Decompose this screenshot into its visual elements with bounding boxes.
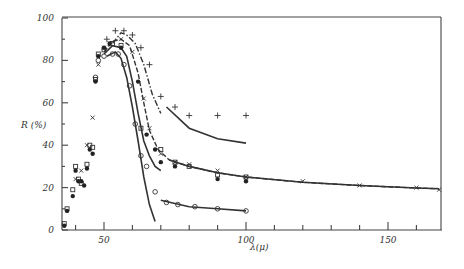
square-marker	[85, 162, 89, 166]
series-curve-tail	[167, 107, 247, 143]
filled-circle-marker	[90, 151, 94, 155]
x-axis-ticks: 50100150	[76, 222, 417, 245]
filled-circle-marker	[65, 209, 69, 213]
cross-marker	[79, 169, 83, 173]
filled-circle-marker	[173, 164, 177, 168]
y-tick-label: 20	[42, 183, 55, 193]
filled-circle-marker	[107, 41, 111, 45]
filled-circle-marker	[102, 45, 106, 49]
plus-marker	[146, 62, 152, 68]
plus-marker	[186, 113, 192, 119]
open-circle-marker	[144, 164, 149, 169]
filled-circle-marker	[73, 168, 77, 172]
filled-circle-marker	[62, 224, 66, 228]
y-tick-label: 100	[37, 13, 54, 23]
plus-marker	[138, 45, 144, 51]
filled-circle-marker	[71, 194, 75, 198]
plus-marker	[158, 93, 164, 99]
filled-circle-marker	[79, 179, 83, 183]
x-tick-label: 50	[98, 235, 110, 245]
filled-circle-marker	[136, 79, 140, 83]
y-tick-label: 80	[43, 55, 55, 65]
filled-circle-marker	[119, 45, 123, 49]
plus-marker	[129, 32, 135, 38]
reflectance-chart: 020406080100 50100150 R (%) λ(μ)	[0, 0, 464, 269]
square-marker	[74, 164, 78, 168]
y-tick-label: 60	[43, 98, 55, 108]
plus-marker	[243, 113, 249, 119]
square-marker	[71, 188, 75, 192]
y-axis-label: R (%)	[20, 120, 47, 130]
filled-circle-marker	[153, 147, 157, 151]
y-tick-label: 0	[48, 225, 54, 235]
plus-marker	[112, 28, 118, 34]
plot-frame	[62, 17, 442, 230]
filled-circle-marker	[215, 177, 219, 181]
x-tick-label: 150	[379, 235, 396, 245]
curves	[104, 33, 439, 222]
filled-circle-marker	[159, 160, 163, 164]
cross-marker	[85, 143, 89, 147]
filled-circle-marker	[88, 147, 92, 151]
x-axis-label: λ(μ)	[249, 242, 269, 252]
open-circle-marker	[102, 54, 107, 59]
cross-marker	[91, 116, 95, 120]
series-curve-tail	[161, 200, 246, 211]
open-circle-marker	[96, 58, 101, 63]
y-tick-label: 40	[42, 140, 55, 150]
filled-circle-marker	[82, 183, 86, 187]
plus-marker	[215, 113, 221, 119]
data-markers	[62, 28, 441, 228]
filled-circle-marker	[244, 179, 248, 183]
filled-circle-marker	[85, 166, 89, 170]
cross-marker	[96, 63, 100, 67]
filled-circle-marker	[144, 132, 148, 136]
open-circle-marker	[153, 190, 158, 195]
plus-marker	[104, 36, 110, 42]
plus-marker	[172, 104, 178, 110]
